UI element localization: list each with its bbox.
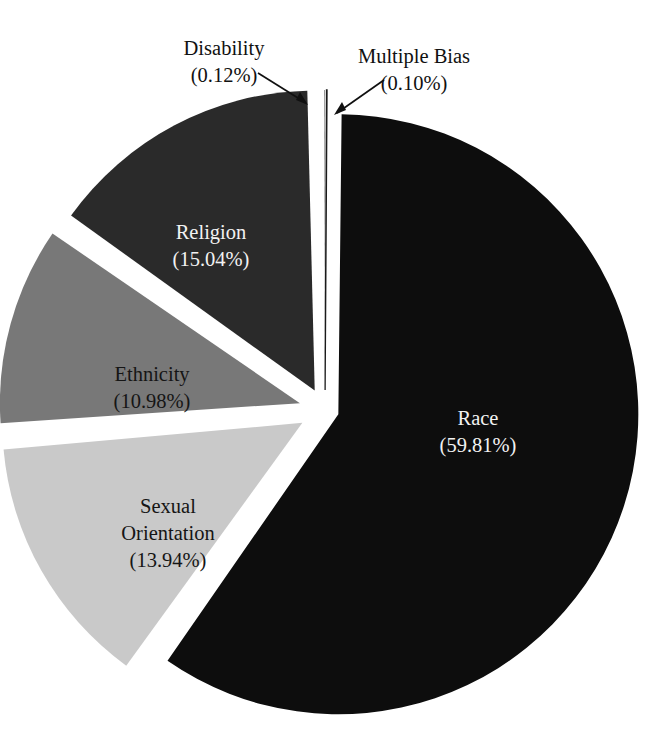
slice-label-disability-value: (0.12%) [191, 64, 258, 87]
slice-label-ethnicity-value: (10.98%) [114, 390, 191, 413]
slice-label-disability-name: Disability [184, 37, 266, 60]
slice-label-sexual-orientation-name-line2: Orientation [121, 522, 214, 544]
slice-label-multiple-bias-name: Multiple Bias [358, 45, 470, 68]
pie-chart-figure: Race (59.81%) Religion (15.04%) Ethnicit… [0, 0, 661, 747]
slice-label-race-value: (59.81%) [440, 434, 517, 457]
slice-label-race-name: Race [458, 407, 499, 429]
slice-label-sexual-orientation-value: (13.94%) [130, 549, 207, 572]
slice-label-ethnicity-name: Ethnicity [114, 363, 190, 386]
slice-label-sexual-orientation-name-line1: Sexual [140, 495, 196, 517]
slice-label-multiple-bias-value: (0.10%) [381, 72, 448, 95]
slice-label-religion-name: Religion [176, 221, 247, 244]
pie-chart-svg: Race (59.81%) Religion (15.04%) Ethnicit… [0, 0, 661, 747]
slice-label-religion-value: (15.04%) [173, 248, 250, 271]
